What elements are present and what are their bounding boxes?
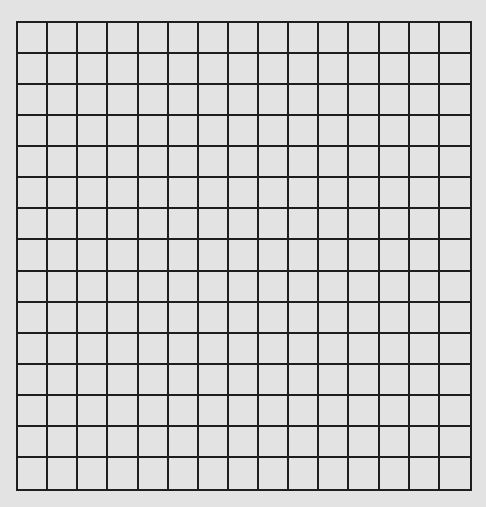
grid-cell <box>410 334 440 365</box>
grid-cell <box>440 54 470 85</box>
grid-cell <box>410 458 440 489</box>
grid-cell <box>229 427 259 458</box>
grid-cell <box>78 23 108 54</box>
grid-cell <box>169 365 199 396</box>
grid-cell <box>380 240 410 271</box>
grid-cell <box>169 458 199 489</box>
grid-cell <box>18 54 48 85</box>
grid-cell <box>169 272 199 303</box>
grid-cell <box>108 147 138 178</box>
grid-cell <box>259 178 289 209</box>
grid-cell <box>108 178 138 209</box>
grid-cell <box>349 116 379 147</box>
grid-cell <box>18 147 48 178</box>
grid-cell <box>380 116 410 147</box>
grid-cell <box>199 147 229 178</box>
grid-cell <box>229 85 259 116</box>
grid-cell <box>410 116 440 147</box>
grid-cell <box>199 23 229 54</box>
grid-cell <box>108 116 138 147</box>
grid-cell <box>259 85 289 116</box>
grid-cell <box>319 396 349 427</box>
grid-cell <box>48 23 78 54</box>
grid-cell <box>440 272 470 303</box>
grid-cell <box>229 209 259 240</box>
grid-cell <box>78 272 108 303</box>
grid-cell <box>289 54 319 85</box>
grid-cell <box>48 303 78 334</box>
grid-cell <box>108 396 138 427</box>
grid-cell <box>349 334 379 365</box>
grid-cell <box>380 334 410 365</box>
grid-cell <box>319 209 349 240</box>
grid-cell <box>78 365 108 396</box>
grid-cell <box>18 116 48 147</box>
grid-cell <box>440 334 470 365</box>
grid-cell <box>139 240 169 271</box>
grid-cell <box>199 365 229 396</box>
grid-cell <box>319 272 349 303</box>
grid-cell <box>380 272 410 303</box>
grid-cell <box>410 396 440 427</box>
grid-cell <box>319 85 349 116</box>
grid-cell <box>259 272 289 303</box>
grid-cell <box>18 458 48 489</box>
grid-cell <box>289 178 319 209</box>
grid-cell <box>380 427 410 458</box>
grid-cell <box>410 54 440 85</box>
grid-cell <box>139 303 169 334</box>
grid-cell <box>18 427 48 458</box>
grid-cell <box>139 365 169 396</box>
grid-cell <box>319 427 349 458</box>
grid-cell <box>380 54 410 85</box>
grid-cell <box>319 116 349 147</box>
grid-cell <box>139 209 169 240</box>
grid-cell <box>440 85 470 116</box>
grid-cell <box>410 178 440 209</box>
grid-cell <box>229 54 259 85</box>
grid-cell <box>199 54 229 85</box>
grid-cell <box>169 85 199 116</box>
grid-cell <box>48 458 78 489</box>
grid-cell <box>199 178 229 209</box>
grid-cell <box>229 147 259 178</box>
grid-cell <box>18 240 48 271</box>
grid-cell <box>440 116 470 147</box>
grid-cell <box>440 147 470 178</box>
grid-cell <box>18 396 48 427</box>
grid-cell <box>410 147 440 178</box>
grid-cell <box>78 54 108 85</box>
grid-cell <box>199 458 229 489</box>
grid-cell <box>259 396 289 427</box>
grid-cell <box>229 23 259 54</box>
grid-cell <box>139 178 169 209</box>
grid-cell <box>78 396 108 427</box>
grid-cell <box>440 427 470 458</box>
grid-cell <box>108 334 138 365</box>
grid-cell <box>289 240 319 271</box>
grid-cell <box>108 458 138 489</box>
grid-cell <box>78 147 108 178</box>
grid-cell <box>289 147 319 178</box>
grid-cell <box>229 334 259 365</box>
grid-cell <box>199 303 229 334</box>
grid-cell <box>380 85 410 116</box>
grid-cell <box>319 23 349 54</box>
grid-cell <box>18 365 48 396</box>
grid-cell <box>18 23 48 54</box>
grid-cell <box>319 178 349 209</box>
grid-cell <box>289 116 319 147</box>
grid-cell <box>78 209 108 240</box>
grid-cell <box>349 23 379 54</box>
grid-cell <box>199 116 229 147</box>
grid-cell <box>259 303 289 334</box>
grid-cell <box>289 23 319 54</box>
grid-cell <box>139 116 169 147</box>
grid-cell <box>48 178 78 209</box>
grid-cell <box>169 303 199 334</box>
grid-cell <box>259 365 289 396</box>
grid-cell <box>78 178 108 209</box>
grid-cell <box>319 365 349 396</box>
grid-cell <box>259 23 289 54</box>
grid-cell <box>440 23 470 54</box>
